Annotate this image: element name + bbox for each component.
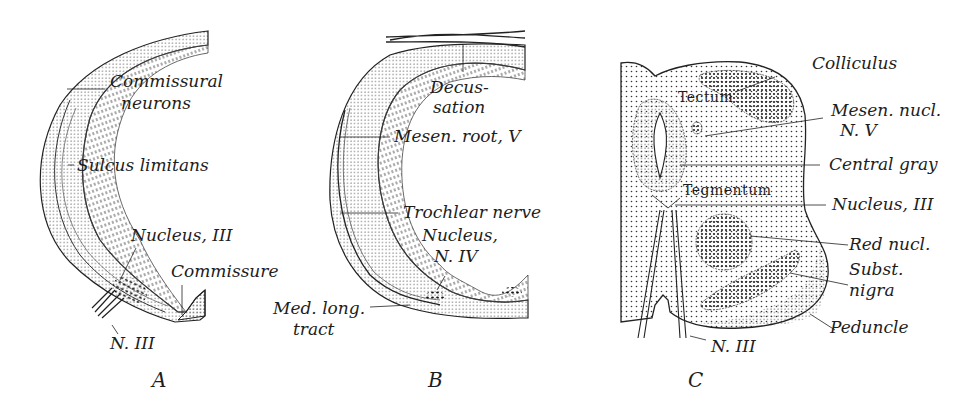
label-red-nucl: Red nucl.: [849, 235, 930, 254]
label-central-gray: Central gray: [829, 155, 938, 174]
label-sulcus-limitans: Sulcus limitans: [77, 156, 209, 175]
label-tegmentum: Tegmentum: [683, 181, 772, 200]
label-mesen-nucl: Mesen. nucl.: [831, 101, 941, 120]
panel-c-drawing: [621, 62, 848, 340]
label-tract: tract: [293, 320, 334, 339]
label-nucleus-b: Nucleus,: [422, 226, 498, 245]
label-peduncle: Peduncle: [830, 318, 909, 337]
label-subst: Subst.: [849, 260, 903, 279]
label-tectum: Tectum: [678, 88, 733, 107]
label-n-iv: N. IV: [434, 247, 478, 266]
midbrain-figure: Commissural neurons Sulcus limitans Nucl…: [0, 0, 968, 401]
panel-letter-b: B: [428, 368, 443, 392]
label-n-iii-a: N. III: [110, 334, 155, 353]
label-n-iii-c: N. III: [711, 337, 756, 356]
label-n-v: N. V: [840, 121, 877, 140]
label-nucleus-iii-a: Nucleus, III: [131, 226, 232, 245]
label-commissure: Commissure: [171, 262, 279, 281]
label-med-long: Med. long.: [273, 299, 365, 318]
panel-letter-c: C: [688, 368, 703, 392]
label-decus: Decus-: [430, 78, 489, 97]
panel-b-drawing: [330, 31, 528, 318]
label-colliculus: Colliculus: [812, 54, 897, 73]
label-nigra: nigra: [849, 281, 895, 300]
label-mesen-root-v: Mesen. root, V: [394, 127, 521, 146]
label-nucleus-iii-c: Nucleus, III: [832, 195, 933, 214]
label-neurons: neurons: [121, 94, 191, 113]
panel-letter-a: A: [152, 368, 166, 392]
label-sation: sation: [433, 98, 485, 117]
label-trochlear-nerve: Trochlear nerve: [403, 203, 541, 222]
label-commissural-neurons: Commissural: [110, 72, 223, 91]
